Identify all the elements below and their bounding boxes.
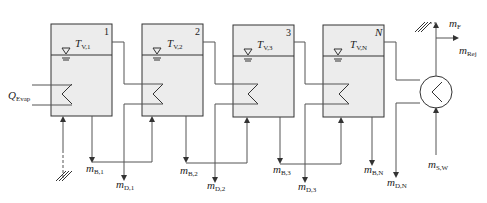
- heat-input-label: QEvap: [8, 89, 31, 103]
- cut-mark-icon: [415, 22, 431, 32]
- evaporator-diagram: 1 2 3 N TV,1 TV,2 TV,3 TV,N QEvap mB,1 m…: [0, 0, 487, 203]
- condenser: [420, 76, 452, 108]
- stage-number: 2: [195, 26, 200, 37]
- svg-text:mB,1: mB,1: [86, 162, 104, 176]
- svg-text:mB,2: mB,2: [180, 164, 198, 178]
- stage-number: N: [374, 26, 383, 38]
- stage-3-tank: [233, 25, 294, 117]
- svg-text:mB,N: mB,N: [364, 163, 383, 177]
- svg-text:mS,W: mS,W: [428, 158, 449, 172]
- svg-text:mD,N: mD,N: [387, 176, 407, 190]
- svg-text:mD,1: mD,1: [116, 178, 135, 192]
- svg-text:mD,3: mD,3: [298, 180, 317, 194]
- svg-text:mB,3: mB,3: [273, 163, 291, 177]
- svg-text:mD,2: mD,2: [207, 179, 226, 193]
- stage-number: 1: [104, 26, 109, 37]
- cut-mark-icon: [56, 171, 72, 181]
- stage-number: 3: [286, 27, 291, 38]
- stage-1-tank: [51, 24, 112, 116]
- svg-text:mF: mF: [449, 17, 461, 31]
- svg-text:mRej: mRej: [459, 44, 477, 58]
